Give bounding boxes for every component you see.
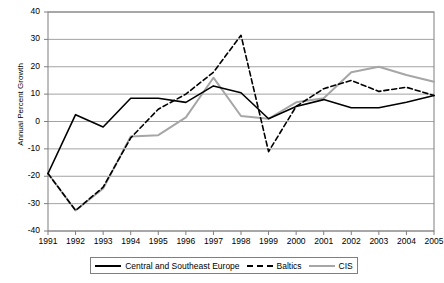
y-tick-label: 10 — [12, 89, 40, 98]
legend-swatch-cis — [309, 265, 335, 267]
y-tick-label: -20 — [12, 171, 40, 180]
chart-container: Annual Percent Growth 403020100-10-20-30… — [0, 0, 444, 283]
y-tick-label: -10 — [12, 144, 40, 153]
chart-legend: Central and Southeast Europe Baltics CIS — [90, 257, 358, 274]
legend-swatch-central-and-southeast-europe — [95, 265, 121, 267]
y-tick-label: 20 — [12, 62, 40, 71]
series-line-central-and-southeast-europe — [48, 86, 434, 174]
y-tick-label: 30 — [12, 34, 40, 43]
y-tick-label: -40 — [12, 226, 40, 235]
legend-swatch-baltics — [247, 265, 273, 267]
legend-item: Central and Southeast Europe — [95, 261, 239, 271]
x-tick-label: 2005 — [417, 237, 444, 246]
y-tick-label: 0 — [12, 117, 40, 126]
series-line-cis — [48, 67, 434, 211]
y-tick-label: 40 — [12, 7, 40, 16]
y-tick-label: -30 — [12, 199, 40, 208]
legend-item: CIS — [309, 261, 353, 271]
legend-label: CIS — [339, 261, 353, 271]
legend-label: Central and Southeast Europe — [125, 261, 239, 271]
legend-item: Baltics — [247, 261, 302, 271]
legend-label: Baltics — [277, 261, 302, 271]
